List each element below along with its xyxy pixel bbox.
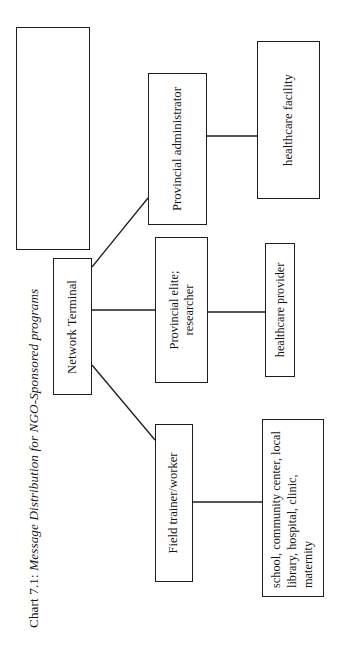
node-provincial-elite-researcher[interactable]: Provincial elite; researcher — [155, 237, 208, 383]
node-provincial-administrator[interactable]: Provincial administrator — [148, 73, 207, 225]
caption-number: Chart 7.1: — [26, 571, 41, 628]
node-service-locations[interactable]: school, community center, local library,… — [262, 419, 324, 597]
edge-root-field — [92, 365, 155, 440]
chart-caption: Chart 7.1: Message Distribution for NGO-… — [26, 289, 42, 628]
node-healthcare-facility[interactable]: healthcare facility — [257, 41, 320, 199]
empty-box[interactable] — [16, 27, 90, 250]
node-service-locations-label: school, community center, local library,… — [269, 428, 317, 588]
node-healthcare-provider[interactable]: healthcare provider — [265, 243, 295, 377]
node-provincial-elite-researcher-label: Provincial elite; researcher — [166, 245, 196, 375]
node-healthcare-provider-label: healthcare provider — [273, 263, 288, 357]
caption-title: Message Distribution for NGO-Sponsored p… — [26, 289, 41, 571]
node-provincial-administrator-label: Provincial administrator — [170, 87, 186, 211]
edge-root-admin — [92, 198, 148, 267]
node-healthcare-facility-label: healthcare facility — [281, 74, 297, 166]
chart-page: Chart 7.1: Message Distribution for NGO-… — [0, 0, 350, 649]
node-network-terminal[interactable]: Network Terminal — [53, 258, 92, 395]
node-network-terminal-label: Network Terminal — [65, 280, 81, 374]
node-field-trainer-worker[interactable]: Field trainer/worker — [155, 424, 193, 582]
node-field-trainer-worker-label: Field trainer/worker — [166, 452, 181, 553]
